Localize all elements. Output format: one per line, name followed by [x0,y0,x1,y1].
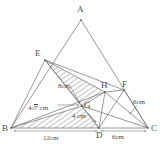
segment-eb [11,60,45,128]
label-E: E [35,49,41,58]
measure-dc: 6cm [112,134,124,141]
label-B: B [2,124,8,133]
label-D: D [96,131,103,140]
measure-eg: 8cm [58,83,70,90]
label-C: C [151,124,157,133]
segment-fc [124,90,148,128]
vertex-point-d [98,127,100,129]
segment-hd [99,92,105,128]
vertex-point-e [44,59,46,61]
segment-hf [105,90,124,92]
vertex-point-f [123,89,125,91]
label-G: G [84,101,91,110]
vertex-point-c [147,127,149,129]
geometry-figure: AEHFGBDC 8cm4√7 cm4 cm12cm6cm6cm [0,0,163,155]
measure-bg: 4√7 cm [28,104,48,112]
shaded-triangle-ehg [45,60,105,106]
vertex-point-b [10,127,12,129]
figure-canvas [0,0,163,155]
label-A: A [77,5,84,14]
measure-gd: 4 cm [72,113,86,120]
label-F: F [122,80,127,89]
label-H: H [101,81,108,90]
segment-fd [99,90,124,128]
vertex-point-a [80,19,82,21]
vertex-point-g [81,105,83,107]
measure-bd: 12cm [43,135,59,142]
vertex-point-h [104,91,106,93]
measure-fc: 6cm [133,99,145,106]
